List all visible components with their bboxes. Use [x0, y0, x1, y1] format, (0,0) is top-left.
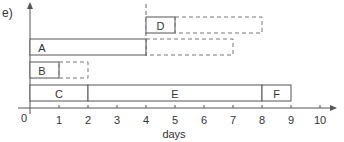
x-tick-label: 9: [288, 114, 294, 126]
x-axis-label: days: [162, 128, 186, 140]
panel-label: e): [2, 6, 13, 20]
task-bar-d: D: [146, 17, 262, 33]
slack-bar-a: [146, 39, 233, 55]
task-label-d: D: [157, 20, 165, 32]
origin-label: 0: [21, 112, 27, 124]
task-bar-e: E: [88, 85, 262, 101]
gantt-diagram: e) 0 1 2 3 4 5 6 7 8 9 10 days: [0, 0, 344, 142]
x-tick-label: 4: [143, 114, 149, 126]
task-label-e: E: [171, 88, 178, 100]
task-label-c: C: [55, 88, 63, 100]
slack-bar-d: [175, 17, 262, 33]
x-tick-label: 5: [172, 114, 178, 126]
x-tick-label: 6: [201, 114, 207, 126]
x-tick-label: 8: [259, 114, 265, 126]
task-bar-b: B: [30, 62, 88, 78]
y-axis-arrow-icon: [27, 2, 33, 9]
x-tick-label: 3: [114, 114, 120, 126]
task-bar-a: A: [30, 39, 233, 55]
task-bar-c: C: [30, 85, 88, 101]
task-bar-f: F: [262, 85, 291, 101]
task-label-b: B: [38, 65, 45, 77]
task-label-a: A: [38, 42, 46, 54]
x-tick-label: 2: [85, 114, 91, 126]
x-axis: 0 1 2 3 4 5 6 7 8 9 10 days: [18, 105, 337, 140]
x-tick-label: 7: [230, 114, 236, 126]
x-axis-arrow-icon: [330, 105, 337, 111]
task-label-f: F: [273, 88, 280, 100]
x-tick-label: 1: [56, 114, 62, 126]
x-tick-label: 10: [314, 114, 326, 126]
slack-bar-b: [59, 62, 88, 78]
